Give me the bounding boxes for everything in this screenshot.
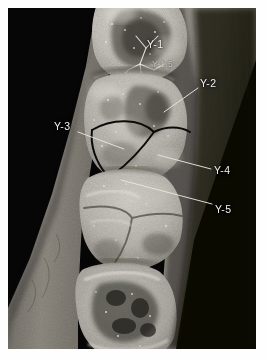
figure-page: Y-1Y-1.5Y-2Y-3Y-4Y-5 bbox=[0, 0, 268, 361]
tooth-m2-crown bbox=[80, 169, 183, 270]
tooth-m3-crown bbox=[75, 263, 176, 349]
photograph-canvas bbox=[8, 8, 256, 349]
photograph-field: Y-1Y-1.5Y-2Y-3Y-4Y-5 bbox=[8, 8, 256, 349]
